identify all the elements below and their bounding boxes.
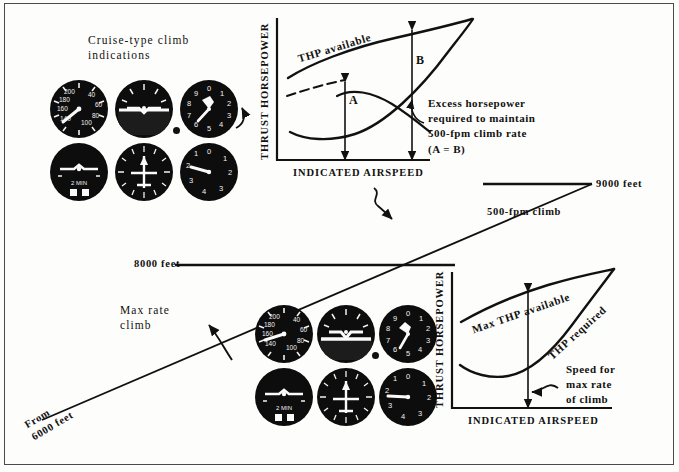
gauge-vertical-speed-indicator-upper: 012 343 21 [180, 143, 238, 201]
svg-text:4: 4 [202, 187, 206, 196]
svg-text:200: 200 [64, 88, 75, 95]
svg-text:2: 2 [227, 99, 231, 108]
top-chart-marker-a: A [349, 93, 358, 109]
altitude-label-9000: 9000 feet [596, 177, 642, 191]
svg-text:2: 2 [228, 168, 232, 177]
top-chart-x-axis-label: INDICATED AIRSPEED [293, 166, 424, 180]
svg-text:5: 5 [207, 124, 211, 133]
bottom-chart-speed-note: Speed for max rate of climb [566, 362, 615, 408]
gauge-altimeter-lower: 012 345 678 9 [379, 305, 437, 363]
svg-text:9: 9 [393, 314, 397, 323]
svg-text:3: 3 [227, 111, 231, 120]
chart-bottom-callout-arrow [532, 385, 558, 392]
vsi-dial: 012 343 21 [180, 143, 238, 201]
svg-text:1: 1 [223, 154, 227, 163]
heading-dial [317, 368, 375, 426]
svg-text:4: 4 [401, 412, 405, 421]
gauge-attitude-indicator-lower [317, 305, 375, 363]
attitude-dial [115, 80, 173, 138]
turn-coordinator-dial: 2 MIN [255, 368, 313, 426]
svg-text:100: 100 [286, 344, 297, 351]
climb-rate-label: 500-fpm climb [487, 205, 561, 219]
svg-text:3: 3 [219, 184, 223, 193]
gauge-airspeed-indicator-upper: 4060 80100 140160 180200 [50, 80, 108, 138]
svg-text:40: 40 [293, 316, 301, 323]
svg-text:1: 1 [194, 149, 198, 158]
svg-text:0: 0 [207, 147, 211, 156]
gauge-airspeed-indicator-lower: 4060 80100 140160 180200 [255, 305, 313, 363]
svg-text:80: 80 [297, 337, 305, 344]
vsi-dial: 012 343 21 [379, 368, 437, 426]
svg-text:7: 7 [386, 336, 390, 345]
svg-text:1: 1 [422, 379, 426, 388]
svg-text:0: 0 [406, 372, 410, 381]
svg-text:160: 160 [262, 330, 273, 337]
altimeter-dial: 012 345 678 9 [180, 80, 238, 138]
svg-text:3: 3 [418, 409, 422, 418]
top-chart-marker-b: B [416, 53, 425, 69]
top-chart-y-axis-label: THRUST HORSEPOWER [258, 23, 272, 160]
svg-text:8: 8 [386, 324, 390, 333]
airspeed-dial: 4060 80100 140160 180200 [50, 80, 108, 138]
airspeed-dial: 4060 80100 140160 180200 [255, 305, 313, 363]
svg-text:180: 180 [264, 321, 275, 328]
svg-text:9: 9 [194, 89, 198, 98]
svg-text:60: 60 [95, 101, 103, 108]
svg-text:40: 40 [88, 91, 96, 98]
arrow-top-chart-to-profile [374, 188, 392, 219]
reference-dot-upper-altimeter [173, 127, 180, 134]
svg-text:1: 1 [419, 314, 423, 323]
svg-text:6: 6 [393, 345, 397, 354]
svg-text:2: 2 [186, 161, 190, 170]
gauge-altimeter-upper: 012 345 678 9 [180, 80, 238, 138]
gauge-turn-coordinator-upper: 2 MIN [50, 143, 108, 201]
turn-coordinator-dial: 2 MIN [50, 143, 108, 201]
attitude-dial [317, 305, 375, 363]
bottom-chart-x-axis-label: INDICATED AIRSPEED [468, 414, 599, 428]
gauge-attitude-indicator-upper [115, 80, 173, 138]
svg-text:1: 1 [393, 374, 397, 383]
caption-cruise-climb: Cruise-type climb indications [88, 33, 189, 63]
gauge-turn-coordinator-lower: 2 MIN [255, 368, 313, 426]
svg-text:4: 4 [219, 120, 223, 129]
reference-dot-lower-altimeter [372, 352, 379, 359]
svg-text:1: 1 [220, 89, 224, 98]
gauge-heading-indicator-upper [115, 143, 173, 201]
svg-text:2 MIN: 2 MIN [71, 180, 87, 186]
altimeter-dial: 012 345 678 9 [379, 305, 437, 363]
svg-text:2: 2 [426, 324, 430, 333]
svg-text:0: 0 [406, 309, 410, 318]
svg-text:8: 8 [187, 99, 191, 108]
svg-text:80: 80 [92, 112, 100, 119]
top-chart-excess-horsepower-note: Excess horsepower required to maintain 5… [428, 96, 535, 157]
caption-max-rate-climb: Max rate climb [120, 303, 170, 333]
svg-text:2 MIN: 2 MIN [276, 405, 292, 411]
arrow-panel-to-profile [209, 325, 232, 360]
svg-text:2: 2 [385, 386, 389, 395]
svg-text:7: 7 [187, 111, 191, 120]
altitude-label-8000: 8000 feet [134, 257, 180, 271]
svg-text:4: 4 [418, 345, 422, 354]
heading-dial [115, 143, 173, 201]
svg-text:180: 180 [59, 96, 70, 103]
svg-text:3: 3 [388, 401, 392, 410]
gauge-vertical-speed-indicator-lower: 012 343 21 [379, 368, 437, 426]
svg-text:100: 100 [81, 119, 92, 126]
svg-text:160: 160 [57, 105, 68, 112]
figure-canvas: Cruise-type climb indications THRUST HOR… [0, 0, 679, 472]
svg-text:140: 140 [265, 340, 276, 347]
svg-text:3: 3 [426, 336, 430, 345]
svg-text:5: 5 [406, 349, 410, 358]
svg-text:200: 200 [269, 313, 280, 320]
svg-text:60: 60 [300, 326, 308, 333]
gauge-heading-indicator-lower [317, 368, 375, 426]
svg-text:3: 3 [189, 176, 193, 185]
svg-text:0: 0 [207, 84, 211, 93]
svg-text:2: 2 [427, 393, 431, 402]
